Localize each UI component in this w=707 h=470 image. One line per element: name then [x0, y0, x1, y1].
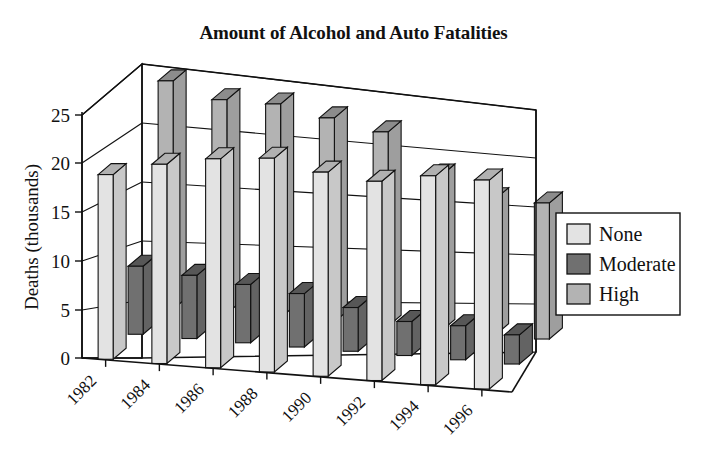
ytick-label-15: 15 — [51, 202, 70, 223]
xtick-label-1982: 1982 — [63, 371, 100, 408]
legend-swatch-none — [567, 224, 590, 244]
legend-label-none: None — [599, 223, 642, 245]
bar-none-1992[interactable] — [367, 170, 395, 380]
legend-swatch-high — [567, 284, 590, 304]
bar-front-face — [313, 172, 328, 376]
xtick-label-1990: 1990 — [278, 388, 315, 425]
legend-swatch-moderate — [567, 254, 590, 274]
bar-side-face — [113, 164, 126, 360]
bar-front-face — [259, 158, 274, 372]
bar-front-face — [182, 275, 197, 338]
ytick-label-20: 20 — [51, 153, 70, 174]
bar-front-face — [152, 164, 167, 363]
bar-none-1996[interactable] — [474, 169, 502, 389]
legend-label-moderate: Moderate — [599, 253, 676, 275]
bar-front-face — [206, 159, 221, 368]
bar-front-face — [474, 180, 489, 389]
bar-side-face — [274, 147, 287, 372]
xtick-label-1986: 1986 — [170, 380, 207, 417]
xtick-label-1988: 1988 — [224, 384, 261, 421]
bar-none-1990[interactable] — [313, 161, 341, 376]
y-axis: 25 20 15 10 5 0 Deaths (thousands) — [21, 105, 82, 369]
bar-side-face — [489, 169, 502, 389]
bar-front-face — [128, 266, 143, 334]
bar-chart-3d: 25 20 15 10 5 0 Deaths (thousands) 19821… — [0, 0, 707, 470]
legend: None Moderate High — [556, 213, 680, 315]
bar-front-face — [289, 294, 304, 347]
ytick-label-10: 10 — [51, 251, 70, 272]
y-axis-title: Deaths (thousands) — [21, 164, 43, 310]
bar-side-face — [221, 148, 234, 368]
legend-label-high: High — [599, 283, 639, 306]
ytick-label-5: 5 — [61, 300, 71, 321]
bar-side-face — [436, 165, 449, 385]
bar-front-face — [504, 335, 519, 364]
bar-side-face — [328, 161, 341, 376]
xtick-label-1992: 1992 — [332, 393, 369, 430]
xtick-label-1996: 1996 — [439, 401, 476, 438]
bar-front-face — [397, 322, 412, 356]
ytick-label-25: 25 — [51, 105, 70, 126]
bar-front-face — [236, 284, 251, 342]
ytick-label-0: 0 — [61, 348, 71, 369]
bar-side-face — [382, 170, 395, 380]
bar-none-1988[interactable] — [259, 147, 287, 372]
bar-moderate-1996[interactable] — [504, 324, 532, 364]
bar-front-face — [98, 175, 113, 360]
bar-side-face — [167, 153, 180, 363]
chart-page: Amount of Alcohol and Auto Fatalities — [0, 0, 707, 470]
bar-front-face — [343, 308, 358, 352]
xtick-label-1984: 1984 — [117, 375, 155, 413]
bar-none-1984[interactable] — [152, 153, 180, 363]
bar-none-1982[interactable] — [98, 164, 126, 360]
bar-none-1994[interactable] — [421, 165, 449, 385]
bar-front-face — [421, 176, 436, 385]
bars-layer — [98, 70, 562, 389]
bar-front-face — [367, 181, 382, 380]
bar-none-1986[interactable] — [206, 148, 234, 368]
xtick-label-1994: 1994 — [385, 396, 423, 434]
bar-front-face — [451, 326, 466, 360]
